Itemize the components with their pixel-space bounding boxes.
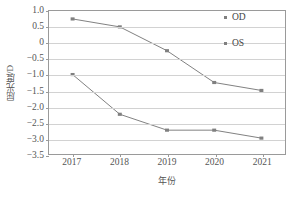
x-axis-title-label: 年份	[158, 176, 176, 186]
y-tick-label: −1.5	[27, 86, 44, 96]
y-tick-label: −2.5	[27, 118, 44, 128]
x-tick-label: 2020	[205, 157, 224, 167]
data-point-marker	[212, 81, 216, 84]
x-axis-tick-labels: 20172018201920202021	[48, 157, 286, 173]
data-point-marker	[165, 129, 169, 132]
y-tick-mark	[46, 59, 49, 60]
y-tick-label: 0.5	[32, 21, 44, 31]
gridline	[49, 140, 285, 141]
data-point-marker	[118, 113, 122, 116]
y-axis-title-label: 屈光度/D	[3, 65, 16, 101]
x-tick-label: 2019	[158, 157, 177, 167]
data-point-marker	[71, 17, 75, 20]
legend-entry-os[interactable]: OS	[224, 38, 280, 48]
y-tick-mark	[46, 43, 49, 44]
legend-marker-icon	[224, 42, 227, 45]
gridline	[49, 108, 285, 109]
y-tick-mark	[46, 140, 49, 141]
data-point-marker	[212, 129, 216, 132]
y-tick-mark	[46, 27, 49, 28]
gridline	[49, 92, 285, 93]
y-tick-mark	[46, 75, 49, 76]
y-tick-mark	[46, 124, 49, 125]
y-tick-label: −0.5	[27, 53, 44, 63]
legend-marker-icon	[224, 16, 227, 19]
y-tick-mark	[46, 11, 49, 12]
legend-entry-od[interactable]: OD	[224, 12, 280, 22]
x-tick-label: 2021	[253, 157, 272, 167]
x-tick-label: 2017	[62, 157, 81, 167]
y-tick-mark	[46, 92, 49, 93]
chart-legend: ODOS	[224, 12, 280, 64]
y-tick-label: −2.0	[27, 102, 44, 112]
y-tick-label: 0	[39, 37, 44, 47]
y-tick-label: −3.0	[27, 134, 44, 144]
y-tick-mark	[46, 108, 49, 109]
series-line-os	[73, 75, 262, 139]
y-tick-label: 1.0	[32, 5, 44, 15]
y-tick-label: −1.0	[27, 69, 44, 79]
data-point-marker	[165, 49, 169, 52]
gridline	[49, 124, 285, 125]
x-tick-label: 2018	[110, 157, 129, 167]
legend-label: OS	[232, 38, 244, 48]
gridline	[49, 75, 285, 76]
legend-label: OD	[232, 12, 246, 22]
y-axis-tick-labels: 1.00.50−0.5−1.0−1.5−2.0−2.5−3.0−3.5	[16, 10, 46, 155]
line-chart: 屈光度/D 1.00.50−0.5−1.0−1.5−2.0−2.5−3.0−3.…	[0, 0, 294, 201]
x-axis-title: 年份	[48, 174, 286, 187]
y-tick-label: −3.5	[27, 150, 44, 160]
